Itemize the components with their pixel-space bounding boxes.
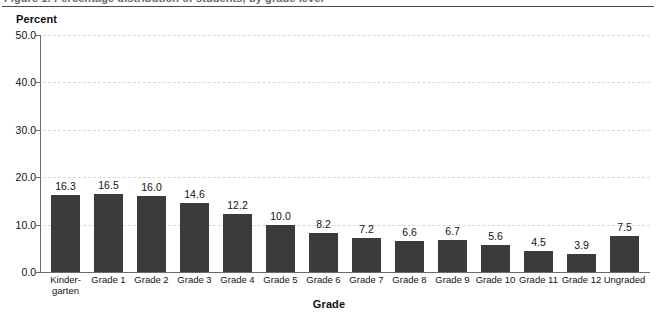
x-axis-tick-label: Grade 9 bbox=[428, 275, 477, 286]
y-axis-tick-label: 40.0 bbox=[2, 76, 36, 88]
figure-caption: Figure 1. Percentage distribution of stu… bbox=[4, 0, 324, 4]
bar-group[interactable]: 6.6Grade 8 bbox=[388, 35, 431, 272]
y-axis-tick-label: 50.0 bbox=[2, 29, 36, 41]
x-axis-tick-label: Grade 6 bbox=[299, 275, 348, 286]
y-axis-tick-label: 20.0 bbox=[2, 171, 36, 183]
bar[interactable] bbox=[352, 238, 381, 272]
chart-plot-area: 0.010.020.030.040.050.0 16.3Kinder-garte… bbox=[40, 35, 650, 272]
bar-value-label: 3.9 bbox=[560, 239, 603, 251]
y-axis-tick-mark bbox=[36, 225, 40, 226]
bar[interactable] bbox=[481, 245, 510, 272]
bar[interactable] bbox=[524, 251, 553, 272]
bar-value-label: 4.5 bbox=[517, 236, 560, 248]
bar-group[interactable]: 4.5Grade 11 bbox=[517, 35, 560, 272]
bar[interactable] bbox=[567, 254, 596, 272]
x-axis-tick-label: Grade 4 bbox=[213, 275, 262, 286]
bar[interactable] bbox=[180, 203, 209, 272]
x-axis-tick-label: Grade 3 bbox=[170, 275, 219, 286]
bar-group[interactable]: 7.5Ungraded bbox=[603, 35, 646, 272]
bar[interactable] bbox=[137, 196, 166, 272]
bar-value-label: 16.3 bbox=[44, 180, 87, 192]
x-axis-tick-label: Ungraded bbox=[600, 275, 649, 286]
bar-value-label: 6.6 bbox=[388, 226, 431, 238]
x-axis-tick-label: Grade 1 bbox=[84, 275, 133, 286]
y-axis-tick-label: 30.0 bbox=[2, 124, 36, 136]
bar-value-label: 16.0 bbox=[130, 181, 173, 193]
bar-value-label: 14.6 bbox=[173, 188, 216, 200]
y-axis-tick-mark bbox=[36, 35, 40, 36]
bar-value-label: 12.2 bbox=[216, 199, 259, 211]
bar-group[interactable]: 10.0Grade 5 bbox=[259, 35, 302, 272]
y-axis-tick-mark bbox=[36, 82, 40, 83]
x-axis-tick-label: Grade 5 bbox=[256, 275, 305, 286]
y-axis-tick-mark bbox=[36, 272, 40, 273]
x-axis-tick-label: Grade 12 bbox=[557, 275, 606, 286]
x-axis-tick-label: Grade 11 bbox=[514, 275, 563, 286]
y-axis-tick-mark bbox=[36, 177, 40, 178]
bar-group[interactable]: 12.2Grade 4 bbox=[216, 35, 259, 272]
y-axis-tick-labels: 0.010.020.030.040.050.0 bbox=[0, 35, 36, 272]
bar-series: 16.3Kinder-garten16.5Grade 116.0Grade 21… bbox=[40, 35, 650, 272]
y-axis-tick-label: 10.0 bbox=[2, 219, 36, 231]
x-axis-line bbox=[40, 272, 650, 273]
bar-group[interactable]: 5.6Grade 10 bbox=[474, 35, 517, 272]
bar[interactable] bbox=[94, 194, 123, 272]
x-axis-title: Grade bbox=[0, 298, 658, 310]
bar[interactable] bbox=[610, 236, 639, 272]
y-axis-title: Percent bbox=[16, 13, 57, 25]
x-axis-tick-label: Grade 8 bbox=[385, 275, 434, 286]
bar-value-label: 16.5 bbox=[87, 179, 130, 191]
bar-value-label: 7.2 bbox=[345, 223, 388, 235]
bar-group[interactable]: 3.9Grade 12 bbox=[560, 35, 603, 272]
bar-group[interactable]: 16.5Grade 1 bbox=[87, 35, 130, 272]
x-axis-tick-label: Grade 7 bbox=[342, 275, 391, 286]
bar-value-label: 10.0 bbox=[259, 210, 302, 222]
bar-value-label: 7.5 bbox=[603, 221, 646, 233]
bar[interactable] bbox=[223, 214, 252, 272]
x-axis-tick-label: Kinder-garten bbox=[41, 275, 90, 296]
x-axis-tick-label: Grade 2 bbox=[127, 275, 176, 286]
bar-value-label: 5.6 bbox=[474, 230, 517, 242]
bar[interactable] bbox=[395, 241, 424, 272]
bar-group[interactable]: 16.0Grade 2 bbox=[130, 35, 173, 272]
x-axis-tick-label: Grade 10 bbox=[471, 275, 520, 286]
bar-value-label: 8.2 bbox=[302, 218, 345, 230]
bar-group[interactable]: 8.2Grade 6 bbox=[302, 35, 345, 272]
bar[interactable] bbox=[438, 240, 467, 272]
bar-group[interactable]: 7.2Grade 7 bbox=[345, 35, 388, 272]
bar[interactable] bbox=[266, 225, 295, 272]
bar[interactable] bbox=[309, 233, 338, 272]
bar-group[interactable]: 14.6Grade 3 bbox=[173, 35, 216, 272]
y-axis-tick-mark bbox=[36, 130, 40, 131]
bar-group[interactable]: 16.3Kinder-garten bbox=[44, 35, 87, 272]
bar[interactable] bbox=[51, 195, 80, 272]
bar-group[interactable]: 6.7Grade 9 bbox=[431, 35, 474, 272]
y-axis-tick-label: 0.0 bbox=[2, 266, 36, 278]
bar-value-label: 6.7 bbox=[431, 225, 474, 237]
caption-divider bbox=[2, 6, 654, 7]
